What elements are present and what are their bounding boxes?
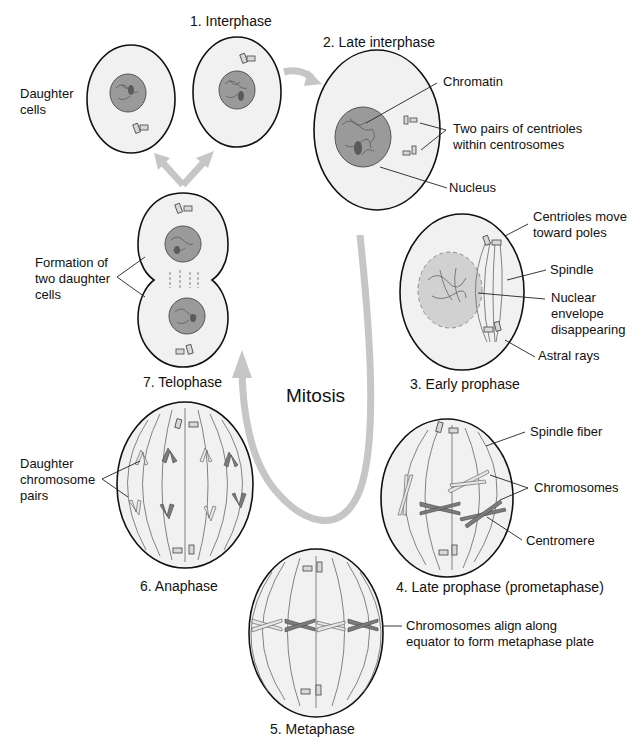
arrowhead-icon [232,350,252,378]
label-nuclear-envelope-3: disappearing [551,322,625,337]
label-formation-3: cells [35,287,62,302]
label-chromosomes: Chromosomes [534,480,619,495]
label-formation-2: two daughter [35,271,111,286]
diagram-title: Mitosis [286,385,345,406]
label-formation-1: Formation of [35,255,108,270]
label-spindle-fiber: Spindle fiber [530,424,603,439]
phase-label-telophase: 7. Telophase [143,374,222,390]
label-daughter-cells-2: cells [20,102,47,117]
label-spindle: Spindle [550,262,593,277]
late-prophase-cell [381,419,513,577]
phase-label-anaphase: 6. Anaphase [140,578,218,594]
label-chromatin: Chromatin [443,74,503,89]
leader-line [505,340,535,357]
arrow-to-daughter-right [183,163,203,185]
interphase-cell [193,37,281,147]
phase-label-interphase: 1. Interphase [190,13,272,29]
leader-line [505,224,528,236]
label-nuclear-envelope-2: envelope [551,306,604,321]
early-prophase-cell [400,214,524,370]
phase-label-metaphase: 5. Metaphase [270,721,355,737]
phase-label-late-prophase: 4. Late prophase (prometaphase) [396,579,604,595]
late-interphase-cell [314,50,440,210]
metaphase-cell [249,549,383,717]
label-metaphase-plate-1: Chromosomes align along [406,618,557,633]
phase-label-late-interphase: 2. Late interphase [323,34,435,50]
label-astral-rays: Astral rays [538,348,600,363]
label-daughter-chromosome-3: pairs [20,488,49,503]
mitosis-diagram: Mitosis 1. Interphase Daughter cells [0,0,644,755]
arrow-to-daughter-left [163,163,183,185]
label-daughter-chromosome-1: Daughter [20,456,74,471]
label-metaphase-plate-2: equator to form metaphase plate [406,634,594,649]
label-nuclear-envelope-1: Nuclear [551,290,596,305]
label-centrioles-1: Two pairs of centrioles [453,121,583,136]
telophase-cell [138,193,228,367]
label-daughter-chromosome-2: chromosome [20,472,95,487]
anaphase-cell [117,402,253,568]
phase-label-early-prophase: 3. Early prophase [410,376,520,392]
label-centromere: Centromere [526,533,595,548]
arrow-mitosis-cycle [242,235,371,520]
label-centrioles-move-1: Centrioles move [533,209,627,224]
daughter-cell-left [87,45,175,153]
label-nucleus: Nucleus [449,180,496,195]
label-centrioles-move-2: toward poles [533,225,607,240]
label-centrioles-2: within centrosomes [452,137,565,152]
label-daughter-cells-1: Daughter [20,86,74,101]
